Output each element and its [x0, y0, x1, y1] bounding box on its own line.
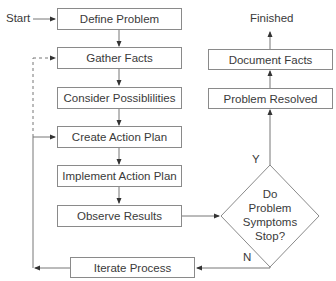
step-label: Problem Resolved: [224, 93, 318, 105]
decision-line: Do: [230, 187, 310, 201]
decision-line: Stop?: [230, 229, 310, 243]
step-label: Implement Action Plan: [62, 170, 176, 182]
step-document-facts: Document Facts: [208, 49, 333, 70]
step-define-problem: Define Problem: [57, 8, 182, 30]
step-label: Gather Facts: [86, 52, 152, 64]
step-iterate-process: Iterate Process: [70, 257, 195, 278]
step-label: Iterate Process: [94, 262, 171, 274]
start-label: Start: [6, 12, 30, 24]
step-implement-action-plan: Implement Action Plan: [57, 165, 182, 187]
step-label: Observe Results: [77, 210, 162, 222]
no-label: N: [243, 251, 251, 263]
step-label: Consider Possiblilities: [64, 92, 176, 104]
step-label: Document Facts: [229, 54, 313, 66]
step-problem-resolved: Problem Resolved: [208, 88, 333, 109]
yes-label: Y: [252, 153, 260, 165]
decision-text: Do Problem Symptoms Stop?: [230, 187, 310, 243]
decision-line: Problem: [230, 201, 310, 215]
step-consider-possibilities: Consider Possiblilities: [57, 87, 182, 109]
step-create-action-plan: Create Action Plan: [57, 126, 182, 148]
finished-label: Finished: [250, 12, 293, 24]
step-label: Create Action Plan: [72, 131, 167, 143]
step-label: Define Problem: [80, 13, 159, 25]
step-observe-results: Observe Results: [57, 205, 182, 227]
decision-line: Symptoms: [230, 215, 310, 229]
step-gather-facts: Gather Facts: [57, 47, 182, 69]
